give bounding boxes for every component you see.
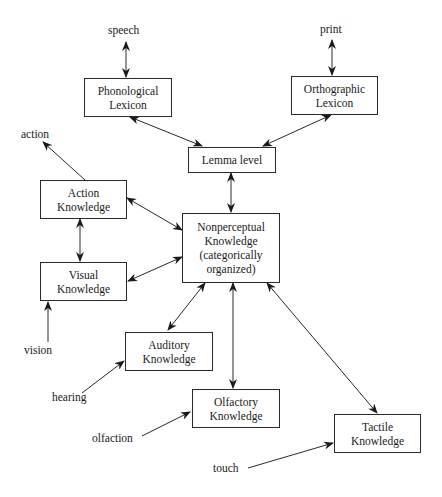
node-nonperceptual-knowledge: NonperceptualKnowledge(categoricallyorga… bbox=[182, 213, 280, 283]
node-text: Auditory bbox=[142, 338, 195, 352]
node-text: Action bbox=[57, 186, 110, 200]
label-vision: vision bbox=[24, 343, 52, 357]
node-tactile-knowledge: TactileKnowledge bbox=[334, 414, 421, 453]
node-text: Knowledge bbox=[142, 352, 195, 366]
edge-touch-tactile bbox=[248, 443, 333, 468]
node-action-knowledge: ActionKnowledge bbox=[40, 180, 127, 219]
edge-olfaction-olfactory bbox=[142, 412, 190, 436]
node-visual-knowledge: VisualKnowledge bbox=[40, 262, 127, 301]
node-text: organized) bbox=[197, 262, 265, 276]
label-touch: touch bbox=[213, 461, 239, 475]
node-text: Knowledge bbox=[197, 234, 265, 248]
node-text: Orthographic bbox=[304, 82, 365, 96]
node-text: Nonperceptual bbox=[197, 220, 265, 234]
node-olfactory-knowledge: OlfactoryKnowledge bbox=[192, 389, 280, 428]
label-speech: speech bbox=[108, 23, 139, 37]
node-orthographic-lexicon: OrthographicLexicon bbox=[291, 76, 378, 115]
node-auditory-knowledge: AuditoryKnowledge bbox=[125, 332, 213, 371]
label-action: action bbox=[21, 127, 49, 141]
node-text: Tactile bbox=[351, 420, 404, 434]
node-phonological-lexicon: PhonologicalLexicon bbox=[84, 78, 172, 117]
node-lemma-level: Lemma level bbox=[188, 147, 276, 173]
node-text: Knowledge bbox=[57, 200, 110, 214]
node-text: Lexicon bbox=[98, 98, 159, 112]
node-text: Knowledge bbox=[351, 434, 404, 448]
edge-action-nonperceptual bbox=[127, 198, 182, 230]
node-text: (categorically bbox=[197, 248, 265, 262]
node-text: Knowledge bbox=[57, 282, 110, 296]
node-text: Lemma level bbox=[202, 153, 262, 167]
label-hearing: hearing bbox=[52, 390, 86, 404]
node-text: Phonological bbox=[98, 84, 159, 98]
node-text: Knowledge bbox=[209, 409, 262, 423]
edge-hearing-auditory bbox=[82, 361, 124, 393]
edge-tactile-nonperceptual bbox=[267, 283, 377, 413]
label-olfaction: olfaction bbox=[92, 431, 133, 445]
label-print: print bbox=[320, 22, 342, 36]
node-text: Olfactory bbox=[209, 395, 262, 409]
node-text: Lexicon bbox=[304, 96, 365, 110]
edge-action-out bbox=[43, 142, 85, 180]
edge-visual-nonperceptual bbox=[128, 257, 182, 281]
edge-auditory-nonperceptual bbox=[168, 283, 205, 330]
node-text: Visual bbox=[57, 268, 110, 282]
edge-orthographic-lemma bbox=[263, 115, 331, 146]
edge-phonological-lemma bbox=[130, 117, 202, 146]
